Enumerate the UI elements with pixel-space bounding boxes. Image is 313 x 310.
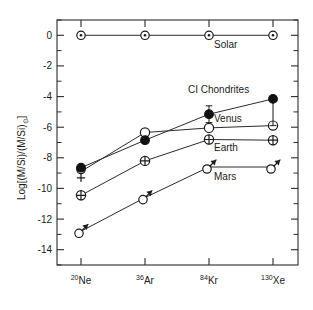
series-label-mars: Mars bbox=[214, 171, 236, 182]
solar-marker bbox=[205, 31, 213, 39]
series-mars: Mars bbox=[75, 160, 280, 238]
noble-gas-abundance-figure: Log[(M/Si)/(M/Si)⊙] bbox=[0, 0, 313, 310]
mars-marker bbox=[139, 191, 152, 204]
earth-marker bbox=[140, 156, 149, 165]
y-tick-label: 0 bbox=[46, 30, 52, 41]
ci-chondrites-marker bbox=[269, 95, 278, 104]
y-tick-label: -4 bbox=[43, 91, 52, 102]
series-label-ci-chondrites: CI Chondrites bbox=[188, 84, 249, 95]
ci-chondrites-line bbox=[81, 99, 273, 168]
x-tick-label-ne: 20Ne bbox=[71, 274, 92, 286]
ci-chondrites-marker bbox=[205, 110, 214, 119]
y-tick-label: -6 bbox=[43, 122, 52, 133]
x-tick-label-ar: 36Ar bbox=[136, 274, 154, 286]
venus-marker bbox=[204, 123, 213, 132]
y-tick-label: -2 bbox=[43, 60, 52, 71]
y-tick-label: -14 bbox=[38, 244, 53, 255]
element-symbol: Ar bbox=[144, 275, 155, 286]
ci-chondrites-marker bbox=[77, 163, 86, 172]
solar-marker bbox=[269, 31, 277, 39]
y-axis-minor-ticks bbox=[57, 20, 298, 265]
element-symbol: Xe bbox=[273, 275, 286, 286]
isotope-mass: 130 bbox=[261, 274, 273, 281]
series-label-solar: Solar bbox=[214, 39, 238, 50]
series-ci-chondrites: CI Chondrites bbox=[77, 84, 278, 172]
series-label-venus: Venus bbox=[214, 113, 242, 124]
x-tick-label-xe: 130Xe bbox=[261, 274, 285, 286]
ci-chondrites-marker bbox=[141, 136, 150, 145]
y-tick-label: -12 bbox=[38, 214, 53, 225]
y-axis-title-main: Log[(M/Si)/(M/Si) bbox=[16, 124, 27, 200]
isotope-mass: 36 bbox=[136, 274, 144, 281]
x-tick-label-kr: 84Kr bbox=[200, 274, 218, 286]
isotope-mass: 84 bbox=[200, 274, 208, 281]
y-axis-title: Log[(M/Si)/(M/Si)⊙] bbox=[16, 115, 29, 200]
mars-marker bbox=[267, 160, 280, 173]
element-symbol: Ne bbox=[79, 275, 92, 286]
earth-marker bbox=[204, 135, 213, 144]
element-symbol: Kr bbox=[208, 275, 219, 286]
y-axis-title-close: ] bbox=[16, 115, 27, 118]
mars-line bbox=[81, 167, 273, 231]
plot-frame bbox=[57, 20, 298, 265]
earth-marker bbox=[76, 191, 85, 200]
solar-marker bbox=[141, 31, 149, 39]
series-label-earth: Earth bbox=[214, 142, 238, 153]
series-venus: Venus bbox=[77, 113, 278, 182]
chart-canvas: Log[(M/Si)/(M/Si)⊙] bbox=[0, 0, 313, 310]
venus-line bbox=[81, 126, 273, 172]
mars-marker bbox=[75, 224, 88, 237]
y-tick-label: -8 bbox=[43, 152, 52, 163]
y-tick-label: -10 bbox=[38, 183, 53, 194]
isotope-mass: 20 bbox=[71, 274, 79, 281]
y-axis-tick-labels: 0 -2 -4 -6 -8 -10 -12 -14 bbox=[38, 30, 53, 255]
x-axis-ticks bbox=[81, 20, 273, 265]
series-solar: Solar bbox=[77, 31, 277, 50]
x-axis-tick-labels: 20Ne 36Ar 84Kr 130Xe bbox=[71, 274, 286, 286]
earth-marker bbox=[268, 136, 277, 145]
solar-marker bbox=[77, 31, 85, 39]
svg-text:Log[(M/Si)/(M/Si)⊙]: Log[(M/Si)/(M/Si)⊙] bbox=[16, 115, 29, 200]
